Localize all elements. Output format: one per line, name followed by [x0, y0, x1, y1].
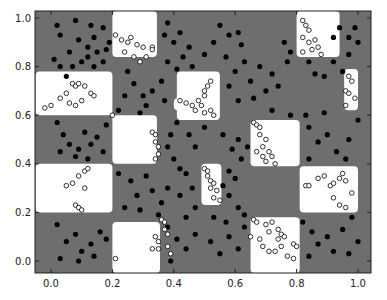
y-tick-label: 0.4 — [15, 158, 31, 169]
class-0-point — [88, 241, 93, 246]
class-0-point — [190, 186, 195, 191]
class-0-point — [141, 93, 146, 98]
class-1-point — [307, 40, 312, 45]
class-0-point — [162, 98, 167, 103]
class-0-point — [352, 25, 357, 30]
class-1-point — [153, 157, 158, 162]
class-0-point — [211, 215, 216, 220]
class-0-point — [67, 49, 72, 54]
class-0-point — [331, 59, 336, 64]
class-1-point — [119, 38, 124, 43]
class-0-point — [159, 79, 164, 84]
class-1-point — [205, 174, 210, 179]
class-0-point — [337, 25, 342, 30]
class-0-point — [174, 120, 179, 125]
class-0-point — [220, 132, 225, 137]
class-0-point — [236, 205, 241, 210]
class-1-point — [156, 247, 161, 252]
class-1-point — [132, 55, 137, 60]
class-1-point — [294, 244, 299, 249]
class-1-point — [190, 103, 195, 108]
class-1-point — [153, 140, 158, 145]
class-0-point — [288, 113, 293, 118]
class-0-point — [58, 64, 63, 69]
class-1-point — [205, 169, 210, 174]
class-1-point — [310, 47, 315, 52]
class-1-point — [156, 239, 161, 244]
class-0-point — [64, 239, 69, 244]
class-1-point — [208, 108, 213, 113]
class-0-point — [257, 64, 262, 69]
class-1-point — [211, 113, 216, 118]
class-0-point — [226, 83, 231, 88]
class-0-point — [76, 258, 81, 263]
class-1-point — [331, 181, 336, 186]
class-0-point — [288, 49, 293, 54]
class-1-point — [156, 152, 161, 157]
class-0-point — [177, 30, 182, 35]
class-1-point — [199, 103, 204, 108]
class-0-point — [165, 59, 170, 64]
class-1-point — [70, 181, 75, 186]
class-0-point — [174, 237, 179, 242]
class-0-point — [70, 64, 75, 69]
class-0-point — [85, 45, 90, 50]
class-0-point — [355, 117, 360, 122]
class-0-point — [236, 137, 241, 142]
class-0-point — [325, 132, 330, 137]
class-1-point — [153, 234, 158, 239]
class-1-point — [257, 125, 262, 130]
class-0-point — [236, 98, 241, 103]
class-0-point — [107, 40, 112, 45]
class-1-point — [141, 45, 146, 50]
class-0-point — [245, 144, 250, 149]
class-1-point — [202, 93, 207, 98]
class-1-point — [125, 40, 130, 45]
class-0-point — [85, 156, 90, 161]
class-1-point — [43, 106, 48, 111]
class-0-point — [101, 25, 106, 30]
class-1-point — [261, 154, 266, 159]
class-0-point — [137, 207, 142, 212]
class-0-point — [101, 149, 106, 154]
class-1-point — [138, 59, 143, 64]
class-0-point — [168, 258, 173, 263]
class-0-point — [331, 35, 336, 40]
class-1-point — [162, 220, 167, 225]
class-1-point — [346, 74, 351, 79]
class-1-point — [257, 237, 262, 242]
class-0-point — [312, 71, 317, 76]
class-0-point — [223, 220, 228, 225]
class-0-point — [187, 45, 192, 50]
y-tick-label: 0.2 — [15, 207, 31, 218]
class-1-point — [122, 50, 127, 55]
class-1-point — [300, 18, 305, 23]
class-1-point — [307, 28, 312, 33]
class-0-point — [325, 234, 330, 239]
class-1-point — [113, 256, 118, 261]
class-0-point — [128, 178, 133, 183]
class-1-point — [267, 230, 272, 235]
class-0-point — [208, 239, 213, 244]
class-1-point — [343, 103, 348, 108]
class-1-point — [156, 144, 161, 149]
class-1-point — [202, 89, 207, 94]
class-1-point — [76, 174, 81, 179]
class-0-point — [193, 144, 198, 149]
class-1-point — [343, 205, 348, 210]
class-1-point — [257, 132, 262, 137]
class-0-point — [79, 59, 84, 64]
class-0-point — [88, 23, 93, 28]
class-0-point — [346, 52, 351, 57]
class-0-point — [137, 110, 142, 115]
class-0-point — [226, 168, 231, 173]
class-0-point — [94, 49, 99, 54]
class-0-point — [165, 20, 170, 25]
class-0-point — [340, 69, 345, 74]
class-0-point — [116, 171, 121, 176]
class-0-point — [242, 224, 247, 229]
class-1-point — [196, 98, 201, 103]
class-1-point — [254, 220, 259, 225]
class-0-point — [131, 81, 136, 86]
class-1-point — [168, 251, 173, 256]
